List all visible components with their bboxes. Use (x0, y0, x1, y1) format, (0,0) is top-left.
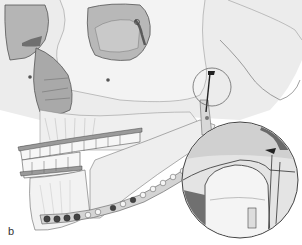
skull-illustration (0, 0, 302, 245)
orbit-right (87, 4, 150, 60)
foramen-dot (106, 78, 110, 82)
foramen-dot (28, 75, 32, 79)
panel-label: b (8, 225, 14, 237)
